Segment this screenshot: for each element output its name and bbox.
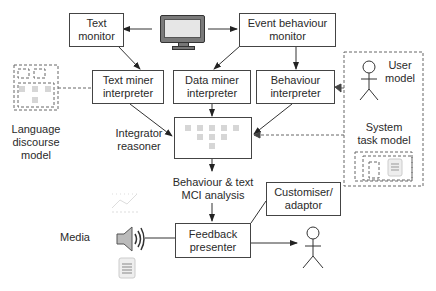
- customiser-adaptor-box: Customiser/ adaptor: [266, 182, 341, 216]
- stick-figure-icon: [356, 60, 382, 104]
- placeholder-square: [32, 86, 38, 92]
- placeholder-square: [233, 125, 239, 131]
- placeholder-square: [209, 125, 215, 131]
- placeholder-square: [197, 134, 203, 140]
- system-task-model-label: System task model: [348, 121, 420, 147]
- mci-analysis-label: Behaviour & text MCI analysis: [164, 176, 262, 202]
- placeholder-square: [185, 125, 191, 131]
- language-discourse-model-label: Language discourse model: [0, 123, 72, 162]
- text-miner-interpreter-box: Text miner interpreter: [92, 70, 164, 104]
- integrator-reasoner-label: Integrator reasoner: [108, 127, 170, 153]
- data-miner-interpreter-box: Data miner interpreter: [173, 70, 251, 104]
- placeholder-square: [197, 125, 203, 131]
- document-icon: [118, 257, 136, 279]
- placeholder-square: [221, 125, 227, 131]
- speaker-icon: [115, 224, 147, 254]
- placeholder-square: [32, 97, 38, 103]
- feedback-presenter-box: Feedback presenter: [175, 223, 251, 258]
- placeholder-square: [209, 143, 215, 149]
- document-icon: [387, 158, 403, 177]
- stick-figure-icon: [300, 226, 326, 270]
- event-behaviour-monitor-box: Event behaviour monitor: [239, 13, 336, 47]
- computer-monitor-icon: [160, 15, 205, 49]
- text-monitor-box: Text monitor: [69, 13, 124, 47]
- user-model-label: User model: [383, 59, 417, 85]
- media-label: Media: [55, 231, 95, 244]
- placeholder-square: [209, 134, 215, 140]
- line-chart-icon: [110, 190, 140, 216]
- placeholder-square: [19, 86, 25, 92]
- placeholder-square: [45, 86, 51, 92]
- behaviour-interpreter-box: Behaviour interpreter: [256, 70, 335, 104]
- placeholder-square: [221, 134, 227, 140]
